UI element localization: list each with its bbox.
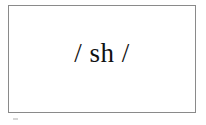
phoneme-label: / sh / xyxy=(74,40,130,67)
phoneme-card-frame: / sh / xyxy=(8,5,196,113)
scan-artifact-mark xyxy=(13,118,18,120)
image-canvas: / sh / xyxy=(0,0,206,125)
